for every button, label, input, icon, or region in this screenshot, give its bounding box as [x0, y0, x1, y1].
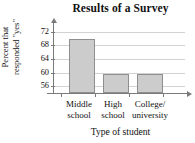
category-label-line1: Middle: [66, 99, 92, 109]
x-axis-line: [47, 93, 188, 94]
y-axis-tick: [51, 73, 55, 74]
x-axis-tick: [95, 93, 96, 97]
y-axis-tick: [51, 32, 55, 33]
y-axis-tick: [51, 45, 55, 46]
x-axis-title: Type of student: [46, 126, 195, 137]
x-axis-tick: [61, 93, 62, 97]
x-axis-tick: [163, 93, 164, 97]
category-label-line1: High: [104, 99, 122, 109]
y-axis-title-line1: Percent that: [0, 27, 10, 68]
y-axis-tick-label: 56: [41, 82, 49, 90]
y-axis-tick: [51, 86, 55, 87]
y-axis-tick: [51, 59, 55, 60]
y-axis-title: Percent that responded "yes": [0, 7, 22, 87]
bar: [137, 74, 163, 93]
x-axis-arrowhead: [187, 91, 192, 97]
gridline: [54, 32, 185, 33]
y-axis-tick-label: 72: [41, 28, 49, 36]
y-axis-tick-label: 64: [41, 55, 49, 63]
category-label-line1: College/: [135, 99, 166, 109]
y-axis-arrowhead: [51, 18, 57, 23]
plot-area: 7268646056: [54, 25, 185, 93]
x-axis-tick: [129, 93, 130, 97]
x-axis-category-label: College/ university: [124, 99, 176, 121]
y-axis-title-line2: responded "yes": [11, 7, 22, 87]
y-axis-tick-label: 60: [41, 68, 49, 76]
chart-title: Results of a Survey: [46, 2, 195, 15]
survey-bar-chart-figure: Results of a Survey Percent that respond…: [0, 0, 195, 143]
bar: [69, 39, 95, 93]
bar: [103, 74, 129, 93]
category-label-line2: university: [124, 110, 176, 121]
y-axis-tick-label: 68: [41, 41, 49, 49]
